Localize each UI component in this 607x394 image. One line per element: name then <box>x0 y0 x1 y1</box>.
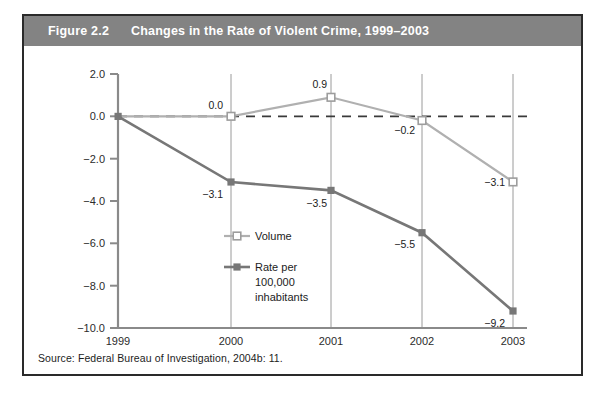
data-label-volume-2003: −3.1 <box>484 176 505 188</box>
x-tick-label: 2003 <box>501 335 525 346</box>
x-tick-label: 1999 <box>106 335 130 346</box>
chart-plot-region: 2.0 0.0 −2.0 −4.0 −6.0 −8.0 −10.0 1999 2… <box>24 46 581 346</box>
x-tick-label: 2001 <box>319 335 343 346</box>
data-point-marker <box>418 229 425 236</box>
legend-label-rate-line3: inhabitants <box>255 291 309 303</box>
legend-label-rate-line2: 100,000 <box>255 276 295 288</box>
data-point-marker <box>327 94 335 102</box>
y-tick-label: −4.0 <box>83 195 105 207</box>
data-point-marker <box>509 178 517 186</box>
data-point-marker <box>509 307 516 314</box>
figure-container: Figure 2.2 Changes in the Rate of Violen… <box>22 14 583 376</box>
data-label-volume-2002: −0.2 <box>394 124 415 136</box>
legend-item-rate[interactable]: Rate per 100,000 inhabitants <box>224 261 309 303</box>
data-label-rate-2003: −9.2 <box>484 317 505 329</box>
data-label-rate-2001: −3.5 <box>306 197 327 209</box>
x-tick-label: 2000 <box>219 335 243 346</box>
figure-title-bar: Figure 2.2 Changes in the Rate of Violen… <box>24 16 581 46</box>
y-tick-label: −10.0 <box>77 322 105 334</box>
series-volume <box>118 94 517 186</box>
data-label-volume-2001: 0.9 <box>312 78 327 90</box>
data-point-marker <box>418 117 426 125</box>
y-tick-label: −8.0 <box>83 280 105 292</box>
data-point-marker <box>327 187 334 194</box>
data-label-rate-2002: −5.5 <box>394 238 415 250</box>
figure-title: Changes in the Rate of Violent Crime, 19… <box>131 24 429 38</box>
y-tick-label: 2.0 <box>90 68 105 80</box>
y-axis <box>110 74 118 329</box>
data-label-rate-2000: −3.1 <box>202 188 223 200</box>
data-label-volume-2000: 0.0 <box>208 99 223 111</box>
data-point-marker <box>115 113 122 120</box>
legend-item-volume[interactable]: Volume <box>224 230 292 242</box>
figure-source-note: Source: Federal Bureau of Investigation,… <box>38 352 283 364</box>
data-point-marker <box>227 178 234 185</box>
figure-number: Figure 2.2 <box>48 24 109 38</box>
data-point-marker <box>227 113 235 121</box>
legend-marker-filled-square <box>233 263 240 270</box>
line-chart: 2.0 0.0 −2.0 −4.0 −6.0 −8.0 −10.0 1999 2… <box>24 46 581 346</box>
chart-legend: Volume Rate per 100,000 inhabitants <box>224 230 309 303</box>
legend-label-volume: Volume <box>255 230 292 242</box>
legend-marker-open-square <box>233 232 241 240</box>
legend-label-rate-line1: Rate per <box>255 261 298 273</box>
y-tick-label: 0.0 <box>90 110 105 122</box>
vertical-gridlines <box>231 74 513 328</box>
x-tick-label: 2002 <box>410 335 434 346</box>
y-tick-label: −6.0 <box>83 237 105 249</box>
y-tick-label: −2.0 <box>83 153 105 165</box>
